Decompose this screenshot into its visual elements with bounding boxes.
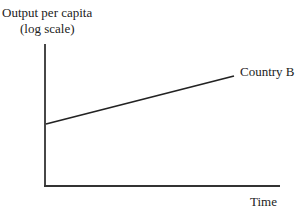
series-line-country-b bbox=[46, 76, 234, 124]
chart-plot bbox=[0, 0, 298, 212]
x-axis-label: Time bbox=[250, 194, 277, 210]
series-label-country-b: Country B bbox=[240, 64, 295, 80]
